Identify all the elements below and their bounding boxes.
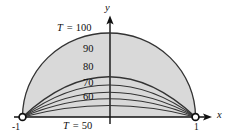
isotherm-label-50: T=50 xyxy=(63,121,92,132)
x-axis-label: x xyxy=(217,110,222,121)
isotherm-label-50-variable: T xyxy=(63,120,69,131)
isotherm-label-100: T=100 xyxy=(57,23,92,34)
isotherm-label-80: 80 xyxy=(83,62,94,73)
isotherm-figure: T=100 90 80 70 60 T=50 y x -1 1 xyxy=(0,0,230,140)
isotherm-label-100-value: 100 xyxy=(76,22,92,33)
isotherm-plot xyxy=(0,0,230,140)
x-tick-label-minus-one: -1 xyxy=(12,123,20,133)
y-axis-label: y xyxy=(105,3,110,14)
endpoint-marker-left xyxy=(19,114,26,121)
isotherm-label-50-equals: = xyxy=(73,120,79,131)
isotherm-label-100-equals: = xyxy=(67,22,73,33)
isotherm-label-50-value: 50 xyxy=(82,120,93,131)
isotherm-label-100-variable: T xyxy=(57,22,63,33)
isotherm-label-70: 70 xyxy=(83,78,94,89)
endpoint-marker-right xyxy=(192,114,199,121)
x-tick-label-one: 1 xyxy=(194,123,199,133)
isotherm-label-90: 90 xyxy=(83,44,94,55)
isotherm-label-60: 60 xyxy=(83,92,94,103)
